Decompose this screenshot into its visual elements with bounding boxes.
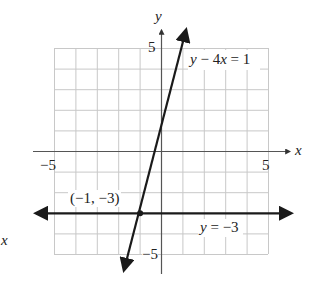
tick-label-y-neg5: −5 (142, 247, 158, 262)
point-label: (−1, −3) (68, 190, 121, 207)
line2-label: y = −3 (198, 219, 243, 237)
line2-label-text: y = −3 (200, 219, 239, 235)
tick-label-x-neg5: −5 (40, 158, 56, 173)
y-axis-label: y (155, 9, 162, 24)
line1-label: y − 4x = 1 (188, 50, 260, 70)
tick-label-y-5: 5 (148, 40, 156, 55)
x-axis-label: x (295, 143, 302, 158)
intersection-point (137, 210, 143, 216)
stray-x-label: x (1, 233, 8, 248)
tick-label-x-5: 5 (262, 158, 270, 173)
line1-label-text: y − 4x = 1 (190, 51, 250, 67)
point-label-text: (−1, −3) (70, 190, 119, 206)
